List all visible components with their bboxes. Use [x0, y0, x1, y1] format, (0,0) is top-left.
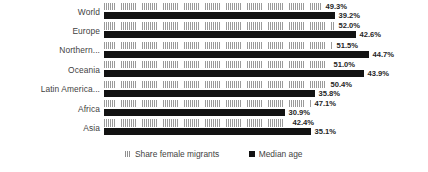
bar-median-age[interactable]	[104, 90, 315, 97]
bar-chart: World 49.3% 39.2% Europe 52.0%	[0, 0, 428, 172]
bars-group: 51.5% 44.7%	[104, 41, 428, 60]
category-label: Northern...	[0, 45, 104, 55]
bar-value-median: 35.1%	[315, 128, 337, 135]
bar-line-share: 51.5%	[104, 42, 358, 49]
bar-line-share: 51.0%	[104, 61, 355, 68]
bar-line-median: 35.8%	[104, 90, 340, 97]
bars-group: 47.1% 30.9%	[104, 99, 428, 118]
bar-line-median: 43.9%	[104, 70, 389, 77]
plot-area: World 49.3% 39.2% Europe 52.0%	[0, 2, 428, 138]
chart-row: World 49.3% 39.2%	[0, 2, 428, 21]
chart-legend: Share female migrants Median age	[0, 149, 428, 159]
bar-line-share: 49.3%	[104, 3, 347, 10]
bar-share-female-migrants[interactable]	[104, 81, 327, 88]
bar-value-share: 42.4%	[293, 119, 315, 126]
category-label: Latin America...	[0, 84, 104, 94]
bar-median-age[interactable]	[104, 70, 364, 77]
chart-row: Oceania 51.0% 43.9%	[0, 60, 428, 79]
bars-group: 52.0% 42.6%	[104, 21, 428, 40]
bar-median-age[interactable]	[104, 51, 369, 58]
bar-value-median: 44.7%	[373, 51, 395, 58]
bar-line-share: 52.0%	[104, 22, 360, 29]
bar-share-female-migrants[interactable]	[104, 119, 289, 126]
bar-value-median: 43.9%	[368, 70, 390, 77]
bar-value-share: 51.0%	[334, 61, 356, 68]
bar-median-age[interactable]	[104, 31, 356, 38]
legend-label: Share female migrants	[135, 149, 219, 159]
bar-share-female-migrants[interactable]	[104, 61, 330, 68]
bar-value-share: 51.5%	[337, 42, 359, 49]
bar-value-share: 52.0%	[339, 22, 361, 29]
bar-line-share: 47.1%	[104, 100, 336, 107]
legend-item-share-female-migrants[interactable]: Share female migrants	[125, 149, 219, 159]
bar-value-median: 39.2%	[339, 12, 361, 19]
chart-row: Africa 47.1% 30.9%	[0, 99, 428, 118]
bars-group: 50.4% 35.8%	[104, 80, 428, 99]
bar-line-median: 30.9%	[104, 109, 310, 116]
chart-row: Europe 52.0% 42.6%	[0, 21, 428, 40]
bar-median-age[interactable]	[104, 109, 285, 116]
bar-line-share: 42.4%	[104, 119, 314, 126]
bar-share-female-migrants[interactable]	[104, 3, 322, 10]
bar-line-share: 50.4%	[104, 81, 352, 88]
legend-swatch-icon	[249, 151, 255, 157]
bar-median-age[interactable]	[104, 128, 311, 135]
bar-value-median: 30.9%	[289, 109, 311, 116]
chart-row: Asia 42.4% 35.1%	[0, 118, 428, 137]
category-label: World	[0, 7, 104, 17]
bar-line-median: 42.6%	[104, 31, 381, 38]
bars-group: 42.4% 35.1%	[104, 118, 428, 137]
legend-item-median-age[interactable]: Median age	[249, 149, 302, 159]
bars-group: 49.3% 39.2%	[104, 2, 428, 21]
bar-median-age[interactable]	[104, 12, 335, 19]
legend-swatch-icon	[125, 151, 131, 157]
bar-line-median: 35.1%	[104, 128, 336, 135]
bar-share-female-migrants[interactable]	[104, 100, 311, 107]
category-label: Asia	[0, 123, 104, 133]
bar-value-median: 42.6%	[360, 31, 382, 38]
bars-group: 51.0% 43.9%	[104, 60, 428, 79]
legend-label: Median age	[259, 149, 303, 159]
category-label: Europe	[0, 26, 104, 36]
bar-share-female-migrants[interactable]	[104, 22, 335, 29]
bar-line-median: 44.7%	[104, 51, 394, 58]
chart-row: Latin America... 50.4% 35.8%	[0, 80, 428, 99]
bar-value-median: 35.8%	[319, 90, 341, 97]
bar-share-female-migrants[interactable]	[104, 42, 333, 49]
bar-line-median: 39.2%	[104, 12, 360, 19]
bar-value-share: 47.1%	[315, 100, 337, 107]
category-label: Oceania	[0, 65, 104, 75]
chart-row: Northern... 51.5% 44.7%	[0, 41, 428, 60]
bar-value-share: 49.3%	[326, 3, 348, 10]
bar-value-share: 50.4%	[331, 81, 353, 88]
category-label: Africa	[0, 104, 104, 114]
